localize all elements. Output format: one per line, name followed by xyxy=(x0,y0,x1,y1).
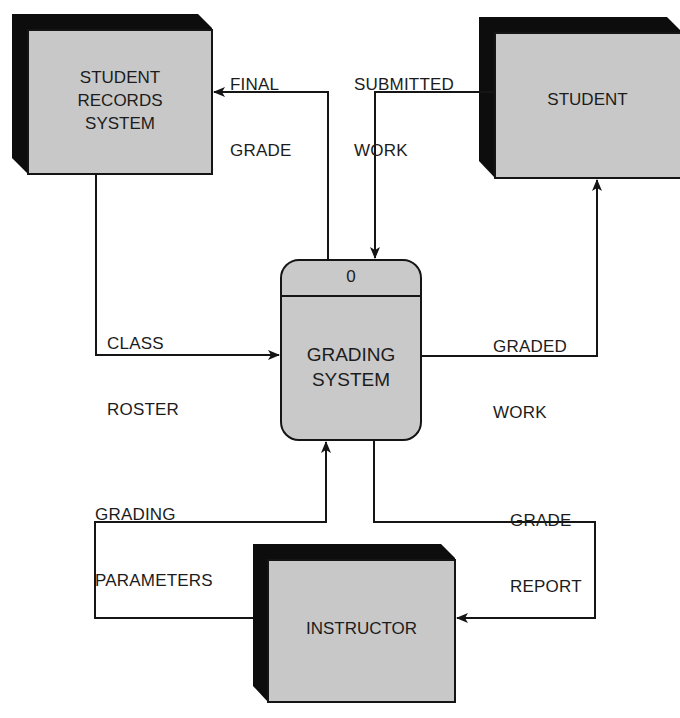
flow-label-class-roster: CLASS ROSTER xyxy=(107,289,179,465)
entity-student-records-label: STUDENT RECORDS SYSTEM xyxy=(28,66,212,135)
flow-label-final-grade: FINAL GRADE xyxy=(230,30,291,206)
entity-label-line: INSTRUCTOR xyxy=(268,617,455,640)
entity-label-line: RECORDS xyxy=(28,89,212,112)
flow-label-line: CLASS xyxy=(107,333,179,355)
flow-label-line: WORK xyxy=(354,140,454,162)
process-name-line: GRADING xyxy=(281,342,421,367)
flow-label-line: ROSTER xyxy=(107,399,179,421)
flow-label-grade-report: GRADE REPORT xyxy=(510,466,582,642)
entity-instructor-label: INSTRUCTOR xyxy=(268,617,455,640)
flow-label-line: REPORT xyxy=(510,576,582,598)
entity-label-line: STUDENT xyxy=(495,88,680,111)
flow-label-line: GRADING xyxy=(95,504,213,526)
flow-label-line: WORK xyxy=(493,402,567,424)
flow-label-line: GRADE xyxy=(510,510,582,532)
flow-label-line: PARAMETERS xyxy=(95,570,213,592)
entity-student-label: STUDENT xyxy=(495,88,680,111)
process-id: 0 xyxy=(281,267,421,287)
process-name: GRADING SYSTEM xyxy=(281,342,421,392)
flow-label-line: FINAL xyxy=(230,74,291,96)
flow-label-graded-work: GRADED WORK xyxy=(493,292,567,468)
flow-label-submitted-work: SUBMITTED WORK xyxy=(354,30,454,206)
flow-label-line: GRADE xyxy=(230,140,291,162)
flow-label-line: SUBMITTED xyxy=(354,74,454,96)
flow-label-grading-parameters: GRADING PARAMETERS xyxy=(95,460,213,636)
diagram-canvas: STUDENT RECORDS SYSTEM STUDENT INSTRUCTO… xyxy=(0,0,680,718)
entity-label-line: SYSTEM xyxy=(28,112,212,135)
process-name-line: SYSTEM xyxy=(281,367,421,392)
entity-label-line: STUDENT xyxy=(28,66,212,89)
flow-label-line: GRADED xyxy=(493,336,567,358)
